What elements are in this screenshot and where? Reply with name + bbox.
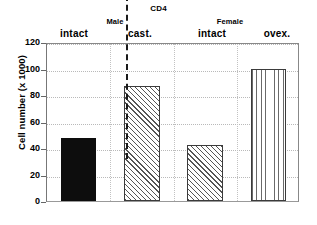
group-label-male: Male [85, 17, 145, 26]
chart-title: CD4 [0, 4, 317, 13]
bar-0-intact [61, 138, 96, 201]
y-tick-label-120: 120 [0, 37, 40, 47]
y-tick-label-20: 20 [0, 170, 40, 180]
y-axis-title: Cell number (x 1000) [16, 28, 27, 178]
condition-label-female-ovex: ovex. [248, 28, 306, 39]
sex-group-divider [126, 0, 128, 159]
gridline-x-1 [174, 44, 175, 201]
gridline-x-0 [110, 44, 111, 201]
plot-area [46, 43, 299, 202]
y-tick-label-0: 0 [0, 196, 40, 206]
y-tick-label-80: 80 [0, 90, 40, 100]
condition-label-female-intact: intact [182, 28, 242, 39]
gridline-y-120 [47, 44, 298, 45]
condition-label-male-intact: intact [44, 28, 104, 39]
y-tick-mark-0 [41, 202, 46, 203]
bar-3-ovex [251, 69, 286, 202]
y-tick-label-60: 60 [0, 117, 40, 127]
gridline-x-2 [237, 44, 238, 201]
bar-2-intact [187, 145, 222, 201]
condition-label-male-cast: cast. [110, 28, 170, 39]
chart-figure: CD4 Male Female intact cast. intact ovex… [0, 0, 317, 225]
group-label-female: Female [200, 17, 260, 26]
y-tick-label-40: 40 [0, 143, 40, 153]
y-tick-label-100: 100 [0, 64, 40, 74]
bar-1-cast [124, 86, 159, 201]
